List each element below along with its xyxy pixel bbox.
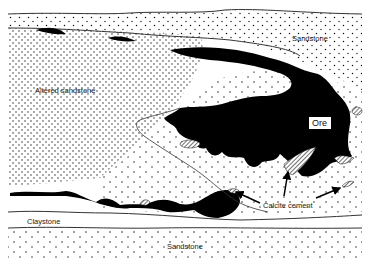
calcite-cement-patch: [180, 140, 200, 148]
label-altered-sandstone: Altered sandstone: [35, 86, 95, 95]
label-claystone: Claystone: [27, 217, 60, 226]
label-ore: Ore: [312, 118, 327, 128]
label-sandstone-top: Sandstone: [292, 34, 328, 43]
label-calcite-cement: Calcite cement: [263, 201, 314, 210]
calcite-cement-patch: [352, 107, 362, 115]
cross-section-diagram: Sandstone Altered sandstone Ore Calcite …: [0, 0, 373, 264]
label-sandstone-bottom: Sandstone: [167, 242, 203, 251]
